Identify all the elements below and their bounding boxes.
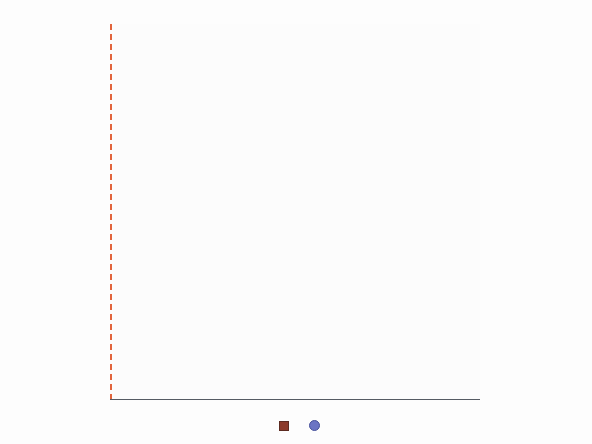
forest-plot-figure — [0, 0, 592, 444]
plot-background — [110, 24, 480, 400]
legend — [0, 420, 592, 431]
reference-line — [110, 24, 112, 400]
legend-swatch-epidemiology — [279, 421, 289, 431]
x-axis — [110, 399, 480, 400]
plot-area — [110, 24, 480, 400]
legend-swatch-genetic — [309, 420, 320, 431]
